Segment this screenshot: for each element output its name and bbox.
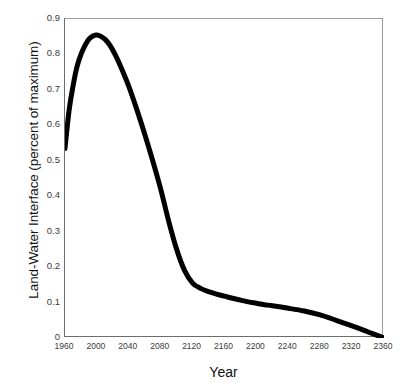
x-tick-label: 2360 xyxy=(363,341,403,351)
line-series-svg xyxy=(65,19,384,338)
chart-container: Land-Water Interface (percent of maximum… xyxy=(0,0,409,390)
line-series-path xyxy=(65,35,384,338)
x-axis-title: Year xyxy=(64,364,383,380)
plot-area xyxy=(64,18,383,337)
